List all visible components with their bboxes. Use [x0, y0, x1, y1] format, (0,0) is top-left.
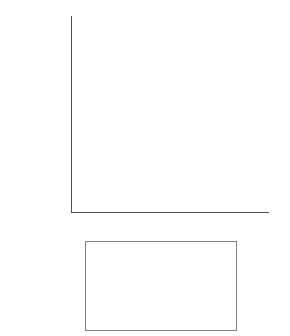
x-axis-line — [71, 212, 269, 213]
chart-legend — [85, 241, 237, 331]
stacked-area-svg — [72, 17, 268, 212]
chart-figure — [0, 0, 290, 336]
chart-plot-region — [0, 0, 290, 238]
stacked-area-plot — [72, 17, 268, 212]
